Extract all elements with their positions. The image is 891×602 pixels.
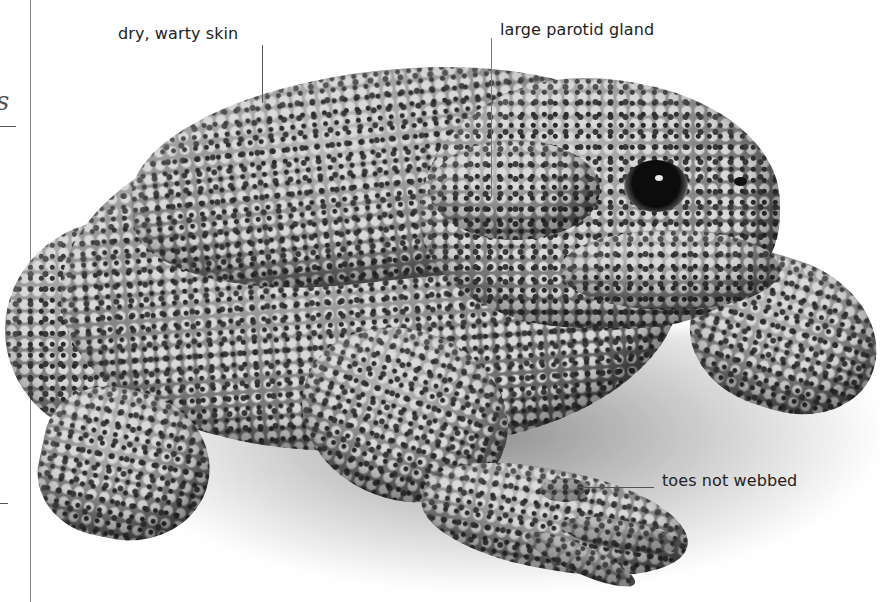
eye-highlight [655, 175, 663, 181]
toad-throat [560, 230, 780, 310]
toad-nostril [734, 177, 747, 186]
leader-line-skin [262, 45, 263, 103]
toad-parotid-gland [430, 140, 600, 240]
annotation-skin: dry, warty skin [118, 24, 238, 43]
toad-eye [624, 160, 688, 212]
leader-line-parotid-gland [491, 38, 492, 198]
toad-front-foot [413, 447, 696, 592]
annotation-parotid-gland: large parotid gland [500, 20, 654, 39]
leader-line-toes [578, 487, 654, 488]
annotation-toes: toes not webbed [662, 471, 797, 490]
toad-toe [540, 478, 590, 502]
